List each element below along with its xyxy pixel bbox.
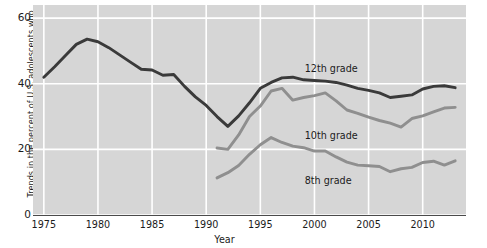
plot-svg	[33, 5, 466, 215]
series-label-8th-grade: 8th grade	[305, 175, 352, 186]
x-tick-label: 1990	[194, 219, 218, 230]
data-lines	[44, 39, 455, 178]
series-label-12th-grade: 12th grade	[305, 63, 358, 74]
series-label-10th-grade: 10th grade	[305, 130, 358, 141]
x-tick-label: 1995	[248, 219, 272, 230]
series-line-12th-grade	[44, 39, 455, 126]
y-tick-label: 60	[18, 11, 31, 23]
x-tick-label: 1985	[140, 219, 164, 230]
chart-figure: Trends in the percent of U.S. adolescent…	[0, 0, 487, 248]
x-axis-tick-labels: 19751980198519901995200020052010	[0, 219, 487, 235]
x-tick-label: 1980	[86, 219, 110, 230]
x-axis-title: Year	[0, 234, 487, 245]
x-tick-label: 2010	[410, 219, 434, 230]
y-axis-tick-labels: 0204060	[0, 0, 31, 248]
x-tick-label: 2000	[302, 219, 326, 230]
y-tick-label: 20	[18, 142, 31, 154]
x-tick-label: 1975	[32, 219, 56, 230]
plot-panel	[33, 5, 466, 215]
y-tick-label: 40	[18, 77, 31, 89]
x-tick-label: 2005	[356, 219, 380, 230]
series-line-8th-grade	[217, 138, 455, 178]
x-axis-line	[33, 215, 466, 216]
x-axis-title-text: Year	[214, 234, 234, 245]
gridlines	[33, 5, 466, 215]
